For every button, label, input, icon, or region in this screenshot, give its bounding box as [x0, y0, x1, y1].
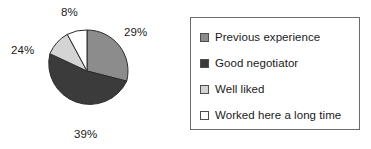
legend-item-worked-here-long: Worked here a long time	[191, 102, 359, 128]
legend-item-previous-experience: Previous experience	[191, 24, 359, 50]
legend-swatch-worked-here-long	[200, 111, 209, 120]
legend-swatch-previous-experience	[200, 33, 209, 42]
pie-data-label-well-liked: 24%	[11, 44, 34, 56]
pie-plot-area: 8% 29% 24% 39%	[0, 0, 185, 149]
pie-svg	[0, 0, 185, 149]
pie-chart-figure: 8% 29% 24% 39% Previous experience Good …	[0, 0, 371, 149]
legend-label-well-liked: Well liked	[215, 83, 265, 95]
pie-data-label-good-negotiator: 39%	[74, 128, 97, 140]
legend-label-worked-here-long: Worked here a long time	[215, 109, 341, 121]
pie-data-label-previous-experience: 29%	[124, 26, 147, 38]
legend-swatch-good-negotiator	[200, 59, 209, 68]
chart-legend: Previous experience Good negotiator Well…	[190, 17, 360, 130]
legend-item-good-negotiator: Good negotiator	[191, 50, 359, 76]
legend-label-good-negotiator: Good negotiator	[215, 57, 298, 69]
legend-swatch-well-liked	[200, 85, 209, 94]
legend-item-well-liked: Well liked	[191, 76, 359, 102]
legend-label-previous-experience: Previous experience	[215, 31, 320, 43]
pie-data-label-worked-here-long: 8%	[61, 6, 78, 18]
